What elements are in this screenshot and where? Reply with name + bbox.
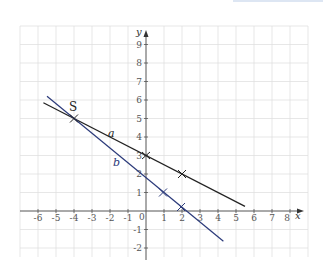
svg-text:-6: -6 <box>34 213 43 223</box>
svg-text:-3: -3 <box>88 213 97 223</box>
coordinate-plot: -6 -5 -4 -3 -2 -1 1 2 3 4 5 6 7 8 x 9 8 … <box>0 0 324 278</box>
svg-text:-2: -2 <box>106 213 115 223</box>
svg-text:4: 4 <box>136 132 142 142</box>
svg-text:5: 5 <box>233 213 239 223</box>
svg-text:-1: -1 <box>124 213 133 223</box>
intersection-label: S <box>69 100 77 114</box>
svg-text:-1: -1 <box>133 225 142 235</box>
svg-text:6: 6 <box>251 213 257 223</box>
line-b-label: b <box>113 156 120 169</box>
origin-label: 0 <box>139 212 145 222</box>
y-axis <box>144 30 149 260</box>
svg-text:2: 2 <box>179 213 185 223</box>
svg-text:7: 7 <box>269 213 275 223</box>
svg-text:-2: -2 <box>133 243 142 253</box>
line-a-label: a <box>108 127 115 140</box>
y-axis-label: y <box>135 26 142 37</box>
svg-text:8: 8 <box>284 213 290 223</box>
svg-text:1: 1 <box>161 213 167 223</box>
svg-text:9: 9 <box>136 40 142 50</box>
svg-text:5: 5 <box>136 114 142 124</box>
svg-text:-5: -5 <box>52 213 61 223</box>
svg-text:6: 6 <box>136 95 142 105</box>
svg-text:4: 4 <box>215 213 221 223</box>
svg-text:1: 1 <box>136 188 142 198</box>
x-axis-label: x <box>295 210 301 221</box>
svg-text:7: 7 <box>136 77 142 87</box>
x-tick-labels: -6 -5 -4 -3 -2 -1 1 2 3 4 5 6 7 8 <box>34 213 291 223</box>
svg-text:8: 8 <box>136 58 142 68</box>
svg-text:-4: -4 <box>70 213 79 223</box>
